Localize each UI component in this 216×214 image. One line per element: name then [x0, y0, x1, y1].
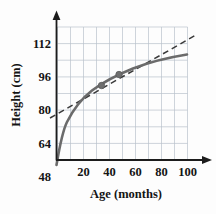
- x-axis-tick-labels: 20 40 60 80 100: [77, 165, 197, 179]
- tangent-line: [50, 35, 196, 118]
- x-axis-arrow-icon: [202, 156, 212, 164]
- x-axis-title: Age (months): [90, 187, 162, 201]
- point-a-marker: [98, 82, 104, 88]
- height-vs-age-chart: 112 96 80 64 48 20 40 60 80 100 Age (mon…: [0, 0, 216, 214]
- x-tick-60: 60: [129, 165, 142, 179]
- y-tick-80: 80: [39, 103, 52, 117]
- chart-gridlines: [58, 27, 188, 160]
- x-tick-100: 100: [178, 165, 197, 179]
- chart-figure: 112 96 80 64 48 20 40 60 80 100 Age (mon…: [0, 0, 216, 214]
- x-tick-80: 80: [155, 165, 168, 179]
- y-tick-64: 64: [39, 137, 52, 151]
- x-tick-20: 20: [77, 165, 90, 179]
- y-axis-title: Height (cm): [9, 63, 23, 127]
- y-tick-112: 112: [33, 37, 51, 51]
- y-tick-48: 48: [39, 170, 52, 184]
- y-axis-arrow-icon: [53, 11, 61, 21]
- y-tick-96: 96: [39, 70, 52, 84]
- x-tick-40: 40: [103, 165, 116, 179]
- point-b-marker: [116, 71, 122, 77]
- chart-axes: [53, 11, 212, 164]
- y-axis-tick-labels: 112 96 80 64 48: [33, 37, 52, 184]
